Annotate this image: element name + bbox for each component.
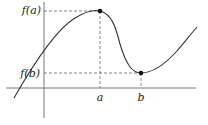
label-f-of-b: f(b) bbox=[19, 67, 40, 80]
function-graph: f(a) f(b) a b bbox=[0, 0, 208, 125]
label-b: b bbox=[137, 91, 144, 104]
label-f-of-a: f(a) bbox=[21, 4, 41, 17]
label-a: a bbox=[97, 91, 104, 104]
function-curve bbox=[14, 11, 197, 98]
max-point bbox=[98, 9, 103, 14]
dashed-guides bbox=[44, 11, 141, 88]
min-point bbox=[139, 71, 144, 76]
